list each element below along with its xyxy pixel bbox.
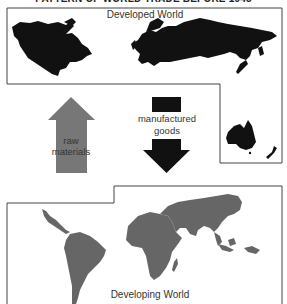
- raw-materials-label-line2: materials: [41, 146, 101, 158]
- north-america-shape: [12, 21, 92, 76]
- developed-world-label: Developed World: [90, 9, 200, 21]
- manufactured-goods-label-line1: manufactured: [126, 113, 208, 125]
- developing-world-label: Developing World: [95, 289, 205, 301]
- new-zealand-shape: [266, 146, 277, 159]
- central-america-shape: [42, 209, 70, 234]
- manufactured-goods-arrow-head: [143, 139, 190, 173]
- madagascar-shape: [172, 258, 178, 272]
- kamchatka-shape: [258, 46, 264, 56]
- southeast-asia-shape: [214, 232, 222, 246]
- new-guinea-shape: [244, 246, 260, 254]
- canadian-islands-shape: [64, 18, 76, 26]
- tasmania-shape: [249, 152, 251, 154]
- manufactured-goods-arrow-top: [152, 97, 181, 112]
- world-trade-diagram: PATTERN OF WORLD TRADE BEFORE 1945: [0, 0, 287, 304]
- borneo-shape: [228, 238, 236, 246]
- japan-shape: [236, 60, 248, 74]
- manufactured-goods-label-line2: goods: [126, 125, 208, 137]
- australia-shape: [226, 120, 256, 150]
